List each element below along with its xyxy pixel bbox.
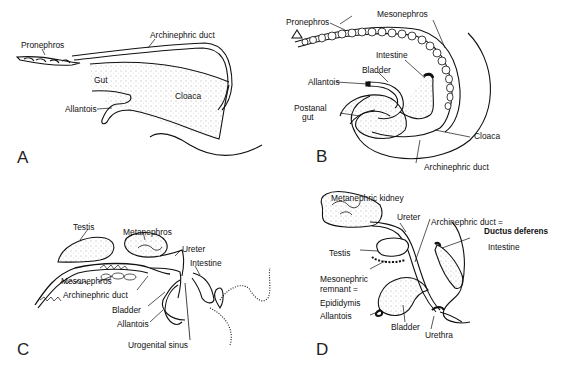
label-b-bladder: Bladder bbox=[362, 66, 391, 75]
label-d-testis: Testis bbox=[329, 249, 350, 258]
label-b-cloaca: Cloaca bbox=[474, 132, 500, 141]
label-d-allantois: Allantois bbox=[320, 312, 352, 321]
label-d-metanephric-kidney: Metanephric kidney bbox=[331, 194, 404, 203]
label-d-intestine: Intestine bbox=[488, 243, 520, 252]
label-d-urethra: Urethra bbox=[425, 331, 453, 340]
label-b-pronephros: Pronephros bbox=[286, 18, 329, 27]
panel-b-drawing bbox=[292, 27, 490, 158]
label-c-ureter: Ureter bbox=[182, 245, 205, 254]
label-d-epididymis: Epididymis bbox=[320, 299, 361, 308]
label-b-postanal-gut-line2: gut bbox=[302, 113, 314, 122]
label-a-allantois: Allantois bbox=[65, 105, 97, 114]
label-c-testis: Testis bbox=[73, 223, 94, 232]
label-b-intestine: Intestine bbox=[376, 51, 408, 60]
label-c-mesonephros: Mesonephros bbox=[61, 277, 112, 286]
diagram-artwork bbox=[0, 0, 565, 366]
label-c-metanephros: Metanephros bbox=[123, 228, 172, 237]
panel-letter-a: A bbox=[17, 148, 28, 168]
panel-a-drawing bbox=[17, 43, 262, 155]
label-d-archinephric-duct: Archinephric duct = bbox=[431, 218, 503, 227]
label-a-cloaca: Cloaca bbox=[175, 92, 201, 101]
label-d-ductus-deferens: Ductus deferens bbox=[484, 227, 548, 236]
panel-letter-d: D bbox=[316, 340, 328, 360]
label-c-archinephric-duct: Archinephric duct bbox=[63, 291, 128, 300]
label-d-mesonephric-remnant-line2: remnant = bbox=[320, 285, 358, 294]
panel-c-drawing bbox=[35, 233, 270, 345]
label-c-intestine: Intestine bbox=[190, 259, 222, 268]
panel-letter-b: B bbox=[316, 147, 327, 167]
label-c-bladder: Bladder bbox=[112, 306, 141, 315]
label-a-gut: Gut bbox=[94, 76, 108, 85]
panel-letter-c: C bbox=[17, 340, 29, 360]
label-d-ureter: Ureter bbox=[397, 213, 420, 222]
label-a-archinephric-duct: Archinephric duct bbox=[150, 31, 215, 40]
label-d-bladder: Bladder bbox=[391, 323, 420, 332]
label-b-archinephric-duct: Archinephric duct bbox=[424, 163, 489, 172]
label-c-urogenital-sinus: Urogenital sinus bbox=[128, 341, 188, 350]
label-d-mesonephric-remnant-line1: Mesonephric bbox=[320, 275, 368, 284]
label-b-allantois: Allantois bbox=[308, 78, 340, 87]
label-a-pronephros: Pronephros bbox=[21, 41, 64, 50]
label-c-allantois: Allantois bbox=[117, 320, 149, 329]
label-b-mesonephros: Mesonephros bbox=[377, 10, 428, 19]
